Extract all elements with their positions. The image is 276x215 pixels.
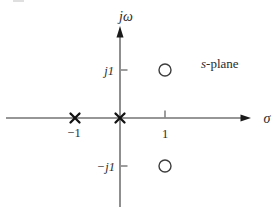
tick-label-neg-j1: −j1 (97, 160, 115, 174)
s-plane-label: s-plane (201, 56, 239, 71)
zero-marker (159, 64, 171, 76)
zero-marker (159, 160, 171, 172)
scan-artifact (13, 0, 24, 2)
sigma-axis-arrow-icon (241, 114, 252, 121)
tick-label-neg-1: −1 (67, 126, 80, 140)
s-plane-figure: jω σ j1 −j1 −1 1 s-plane (0, 0, 276, 215)
s-plane-label-rest: -plane (206, 56, 239, 71)
jomega-axis-label: jω (117, 9, 133, 24)
tick-label-j1: j1 (102, 64, 114, 78)
jomega-axis-arrow-icon (117, 26, 124, 38)
pole-zero-plot: jω σ j1 −j1 −1 1 s-plane (0, 0, 276, 215)
sigma-axis-label: σ (264, 111, 272, 126)
tick-label-1: 1 (162, 127, 168, 141)
